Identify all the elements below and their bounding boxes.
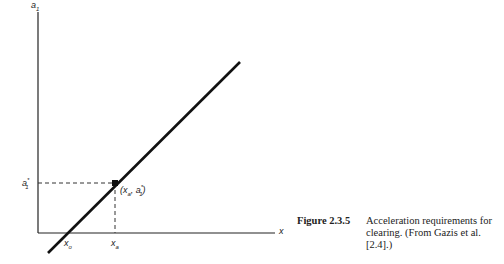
x-tick-xa: xa [111,238,119,250]
caption-text: Acceleration requirements for clearing. … [366,215,504,251]
y-tick-a1star: a*1 [22,177,29,190]
x-tick-xo: xo [64,238,72,250]
x-axis-label: x [279,226,284,236]
data-point [112,180,118,186]
point-label: (xa, a*1) [120,184,146,197]
requirement-line [48,62,240,253]
y-axis-label: a1 [31,0,39,12]
figure-number: Figure 2.3.5 [297,215,350,227]
figure: a1 x a*1 xo xa (xa, a*1) Figure 2.3.5 Ac… [0,0,504,264]
